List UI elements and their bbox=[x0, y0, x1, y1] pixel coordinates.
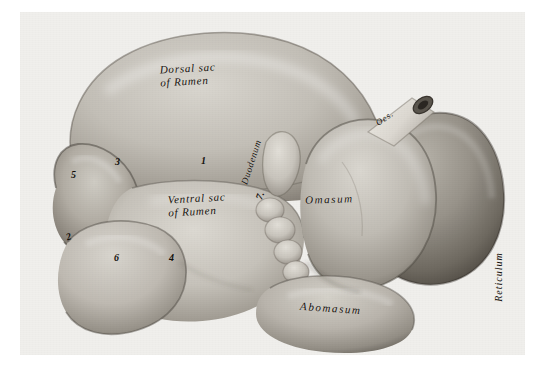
reference-number-6: 6 bbox=[114, 252, 119, 263]
reference-number-4: 4 bbox=[169, 252, 174, 263]
reference-number-5: 5 bbox=[71, 169, 76, 180]
reference-number-1: 1 bbox=[201, 155, 206, 166]
figure-plate: Dorsal sac of Rumen Ventral sac of Rumen… bbox=[0, 0, 545, 379]
reference-number-3: 3 bbox=[115, 156, 120, 167]
specimen-illustration bbox=[20, 12, 525, 355]
photographic-plate bbox=[20, 12, 525, 355]
